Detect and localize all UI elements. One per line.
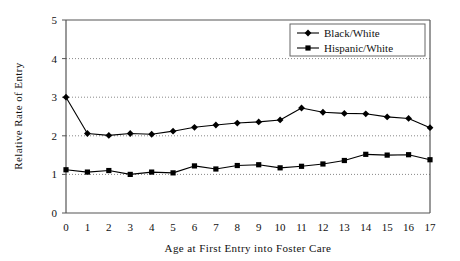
y-tick-label-0: 0	[52, 207, 58, 219]
y-tick-label-1: 1	[52, 168, 58, 180]
data-point	[385, 153, 390, 158]
x-tick-label-8: 8	[235, 221, 241, 233]
x-tick-label-16: 16	[403, 221, 415, 233]
data-point	[256, 162, 261, 167]
legend-label-0: Black/White	[324, 27, 380, 39]
data-point	[106, 168, 111, 173]
data-point	[213, 166, 218, 171]
x-tick-label-10: 10	[275, 221, 287, 233]
x-tick-label-1: 1	[85, 221, 91, 233]
data-point	[128, 172, 133, 177]
legend-label-1: Hispanic/White	[324, 42, 393, 54]
data-point	[63, 167, 68, 172]
relative-rate-of-entry-line-chart: 012345 01234567891011121314151617 Black/…	[0, 0, 460, 261]
x-tick-label-2: 2	[106, 221, 112, 233]
data-point	[427, 157, 432, 162]
data-point	[149, 169, 154, 174]
data-point	[299, 164, 304, 169]
x-tick-label-4: 4	[149, 221, 155, 233]
x-tick-label-9: 9	[256, 221, 262, 233]
data-point	[363, 152, 368, 157]
x-tick-label-3: 3	[127, 221, 133, 233]
chart-figure: 012345 01234567891011121314151617 Black/…	[0, 0, 460, 261]
x-tick-label-15: 15	[382, 221, 394, 233]
y-tick-label-3: 3	[52, 91, 58, 103]
x-tick-label-14: 14	[360, 221, 372, 233]
data-point	[406, 152, 411, 157]
y-tick-label-2: 2	[52, 130, 58, 142]
y-tick-label-4: 4	[52, 53, 58, 65]
data-point	[320, 161, 325, 166]
chart-legend: Black/WhiteHispanic/White	[290, 24, 425, 56]
legend-marker-square-icon	[305, 45, 310, 50]
x-tick-label-7: 7	[213, 221, 219, 233]
data-point	[278, 165, 283, 170]
x-tick-label-6: 6	[192, 221, 198, 233]
data-point	[235, 163, 240, 168]
x-tick-label-12: 12	[317, 221, 328, 233]
x-tick-label-11: 11	[296, 221, 307, 233]
x-tick-label-0: 0	[63, 221, 69, 233]
x-tick-label-13: 13	[339, 221, 351, 233]
data-point	[170, 170, 175, 175]
data-point	[342, 158, 347, 163]
x-tick-label-17: 17	[425, 221, 437, 233]
x-tick-label-5: 5	[170, 221, 176, 233]
data-point	[192, 163, 197, 168]
data-point	[85, 169, 90, 174]
x-axis-title: Age at First Entry into Foster Care	[165, 242, 332, 254]
y-tick-label-5: 5	[52, 14, 58, 26]
y-axis-title: Relative Rate of Entry	[12, 62, 24, 170]
